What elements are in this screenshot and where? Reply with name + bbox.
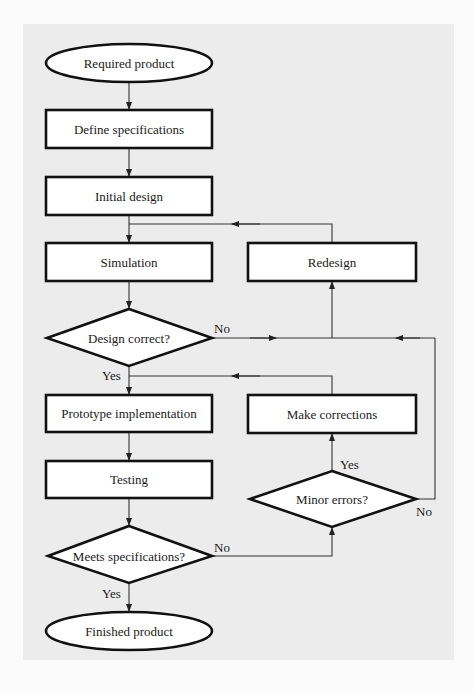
edge-label-yes: Yes bbox=[102, 586, 121, 601]
edge-meets-specs-no bbox=[212, 528, 332, 556]
node-label: Design correct? bbox=[88, 331, 170, 346]
edge-label-no: No bbox=[214, 540, 230, 555]
node-label: Finished product bbox=[85, 624, 173, 639]
edge-redesign-simulation bbox=[129, 224, 332, 243]
node-label: Meets specifications? bbox=[73, 549, 185, 564]
flowchart: Required product Define specifications I… bbox=[0, 0, 473, 693]
node-label: Prototype implementation bbox=[61, 406, 197, 421]
node-label: Define specifications bbox=[74, 122, 184, 137]
node-label: Required product bbox=[84, 56, 175, 71]
node-label: Testing bbox=[110, 472, 149, 487]
edge-minor-errors-no bbox=[416, 338, 435, 499]
edge-label-yes: Yes bbox=[102, 368, 121, 383]
edge-label-no: No bbox=[416, 504, 432, 519]
node-redesign: Redesign bbox=[248, 243, 416, 281]
edge-corrections-prototype bbox=[129, 376, 332, 395]
node-required-product: Required product bbox=[46, 44, 212, 82]
node-make-corrections: Make corrections bbox=[248, 395, 416, 433]
node-meets-specifications: Meets specifications? bbox=[48, 526, 212, 583]
node-label: Redesign bbox=[308, 255, 357, 270]
node-label: Simulation bbox=[100, 255, 158, 270]
node-label: Make corrections bbox=[287, 407, 378, 422]
node-simulation: Simulation bbox=[46, 243, 212, 281]
edge-label-no: No bbox=[214, 321, 230, 336]
node-label: Minor errors? bbox=[296, 492, 368, 507]
node-prototype-implementation: Prototype implementation bbox=[46, 395, 212, 432]
node-minor-errors: Minor errors? bbox=[250, 471, 416, 527]
node-design-correct: Design correct? bbox=[47, 309, 212, 366]
edge-label-yes: Yes bbox=[340, 457, 359, 472]
node-label: Initial design bbox=[95, 189, 164, 204]
node-initial-design: Initial design bbox=[46, 177, 212, 215]
node-testing: Testing bbox=[46, 461, 212, 498]
node-define-specifications: Define specifications bbox=[46, 110, 212, 148]
node-finished-product: Finished product bbox=[46, 612, 212, 650]
